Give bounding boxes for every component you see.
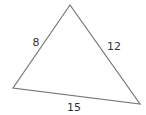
side-label-left: 8 [33, 36, 40, 49]
triangle-diagram: 8 12 15 [0, 0, 146, 115]
triangle-shape [13, 5, 140, 104]
side-label-right: 12 [107, 40, 121, 53]
side-label-bottom: 15 [67, 101, 81, 114]
